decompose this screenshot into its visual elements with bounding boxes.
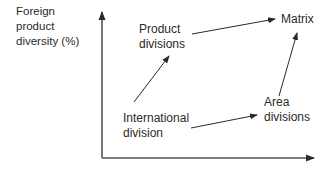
- y-axis-label-line-2: product: [16, 19, 79, 34]
- node-international-division-line-2: division: [123, 126, 189, 141]
- node-matrix: Matrix: [281, 12, 314, 27]
- y-axis-label-line-1: Foreign: [16, 4, 79, 19]
- y-axis-label-line-3: diversity (%): [16, 34, 79, 49]
- arrow-product-to-matrix: [192, 19, 275, 34]
- y-axis-label: Foreign product diversity (%): [16, 4, 79, 49]
- node-product-divisions-line-2: divisions: [139, 37, 185, 52]
- arrow-international-to-area: [191, 115, 257, 128]
- node-area-divisions-line-1: Area: [264, 95, 310, 110]
- node-area-divisions-line-2: divisions: [264, 110, 310, 125]
- node-product-divisions-line-1: Product: [139, 22, 185, 37]
- organizational-structure-diagram: Foreign product diversity (%) Product di…: [0, 0, 330, 171]
- arrow-international-to-product: [134, 56, 169, 102]
- node-matrix-line-1: Matrix: [281, 12, 314, 27]
- node-international-division: International division: [123, 111, 189, 141]
- arrow-area-to-matrix: [279, 33, 297, 96]
- node-product-divisions: Product divisions: [139, 22, 185, 52]
- node-area-divisions: Area divisions: [264, 95, 310, 125]
- node-international-division-line-1: International: [123, 111, 189, 126]
